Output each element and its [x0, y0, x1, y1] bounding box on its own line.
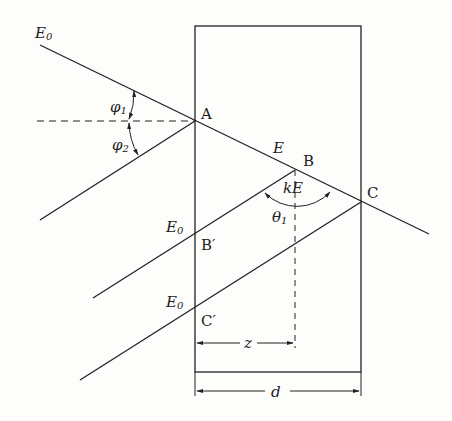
label-phi1: φ1 — [110, 98, 127, 116]
label-Cprime: C′ — [201, 312, 216, 330]
label-C: C — [367, 184, 378, 202]
label-kE: kE — [283, 179, 303, 197]
label-A: A — [200, 105, 212, 123]
label-phi2: φ2 — [112, 136, 129, 154]
ray-Cprime-C — [80, 202, 361, 380]
label-E0-low: E0 — [165, 293, 184, 311]
incident-ray-main — [40, 45, 429, 234]
phi1-arc — [129, 91, 134, 119]
phi2-arc — [129, 123, 138, 155]
diagram-canvas: E0 A B C E kE φ1 φ2 θ1 E0 B′ E0 C′ z d — [0, 0, 452, 421]
label-E: E — [272, 139, 284, 157]
label-z: z — [243, 334, 252, 352]
ray-Bprime-B — [93, 170, 295, 298]
label-E0-top: E0 — [34, 24, 53, 42]
label-d: d — [271, 383, 281, 401]
label-theta1: θ1 — [272, 208, 287, 226]
label-B: B — [303, 152, 314, 170]
label-Bprime: B′ — [201, 236, 216, 254]
label-E0-mid: E0 — [165, 218, 184, 236]
slab-rectangle — [195, 26, 361, 372]
